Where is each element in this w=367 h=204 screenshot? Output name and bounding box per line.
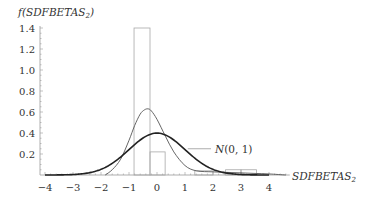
x-tick-label: −2 [94, 182, 109, 193]
x-axis-title: SDFBETAS2 [292, 170, 356, 184]
x-tick-label: −4 [38, 182, 53, 193]
density-chart: 0.20.40.60.81.01.21.4−4−3−2−101234 f(SDF… [0, 0, 367, 204]
x-tick-label: −3 [66, 182, 81, 193]
histogram-bar [134, 28, 150, 175]
normal-annotation: N(0, 1) [214, 143, 252, 155]
axes: 0.20.40.60.81.01.21.4−4−3−2−101234 [19, 23, 290, 194]
x-tick-label: 1 [182, 182, 188, 193]
y-tick-label: 0.2 [19, 149, 35, 160]
y-tick-label: 1.2 [19, 44, 35, 55]
y-tick-label: 0.4 [19, 128, 35, 139]
x-tick-label: 2 [210, 182, 216, 193]
y-tick-label: 0.6 [19, 107, 35, 118]
y-tick-label: 0.8 [19, 86, 35, 97]
x-tick-label: −1 [122, 182, 137, 193]
histogram-bar [150, 152, 165, 175]
x-tick-label: 4 [266, 182, 272, 193]
x-tick-label: 0 [154, 182, 160, 193]
kernel-density-curve [105, 109, 286, 175]
x-tick-label: 3 [238, 182, 244, 193]
axis-labels: f(SDFBETAS2) SDFBETAS2 N(0, 1) [17, 6, 356, 184]
y-tick-label: 1.4 [19, 23, 35, 34]
y-tick-label: 1.0 [19, 65, 35, 76]
y-axis-title: f(SDFBETAS2) [17, 6, 94, 20]
